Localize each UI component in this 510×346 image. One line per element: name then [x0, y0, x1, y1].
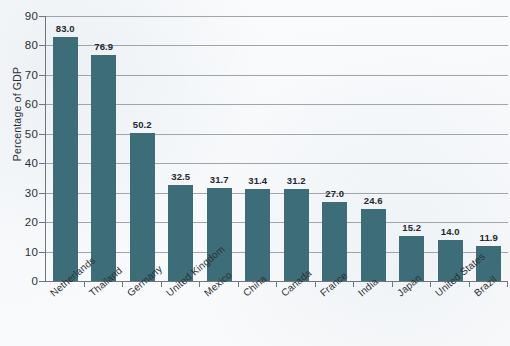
x-category-label: Canada	[279, 267, 313, 298]
x-tick-mark	[199, 281, 200, 287]
x-tick-mark	[507, 281, 508, 287]
x-tick-mark	[238, 281, 239, 287]
x-category-label: Germany	[125, 263, 164, 298]
x-tick-mark	[122, 281, 123, 287]
x-category-label: China	[241, 273, 268, 299]
x-tick-mark	[276, 281, 277, 287]
x-axis-labels-group: NetherlandsThailandGermanyUnited Kingdom…	[0, 0, 510, 346]
x-tick-mark	[84, 281, 85, 287]
x-category-label: Thailand	[87, 265, 124, 299]
x-category-label: Brazil	[472, 274, 499, 299]
x-tick-mark	[469, 281, 470, 287]
x-category-label: France	[318, 270, 349, 299]
bar-chart: 0102030405060708090 Percentage of GDP 83…	[0, 0, 510, 346]
x-tick-mark	[430, 281, 431, 287]
x-tick-mark	[161, 281, 162, 287]
x-tick-mark	[315, 281, 316, 287]
x-category-label: Mexico	[202, 269, 234, 298]
x-tick-mark	[353, 281, 354, 287]
x-tick-mark	[392, 281, 393, 287]
x-category-label: India	[356, 276, 380, 299]
x-category-label: Japan	[395, 272, 423, 298]
